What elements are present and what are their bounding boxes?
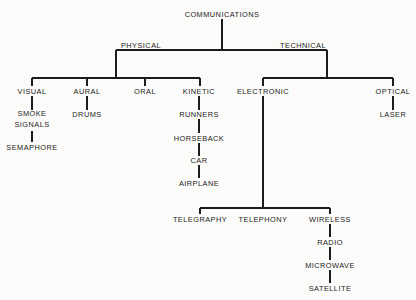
node-horseback: HORSEBACK [174, 134, 224, 143]
node-aural: AURAL [74, 87, 101, 96]
node-label: ELECTRONIC [237, 87, 289, 96]
node-label: SEMAPHORE [6, 143, 57, 152]
node-label: LASER [380, 110, 407, 119]
node-label: TELEPHONY [239, 215, 288, 224]
node-label: MICROWAVE [305, 261, 355, 270]
node-optical: OPTICAL [376, 87, 411, 96]
node-label: OPTICAL [376, 87, 411, 96]
node-label: TECHNICAL [280, 41, 326, 50]
node-communications: COMMUNICATIONS [185, 10, 260, 19]
node-label: KINETIC [183, 87, 215, 96]
node-physical: PHYSICAL [121, 41, 161, 50]
node-label: TELEGRAPHY [173, 215, 227, 224]
node-telephony: TELEPHONY [239, 215, 288, 224]
node-technical: TECHNICAL [280, 41, 326, 50]
node-label: AIRPLANE [179, 179, 219, 188]
node-label: WIRELESS [309, 215, 351, 224]
node-visual: VISUAL [18, 87, 47, 96]
node-wireless: WIRELESS [309, 215, 351, 224]
node-label: RUNNERS [179, 110, 219, 119]
node-label: AURAL [74, 87, 101, 96]
node-satellite: SATELLITE [309, 284, 352, 293]
node-label: SIGNALS [14, 119, 49, 130]
node-label: HORSEBACK [174, 134, 224, 143]
node-radio: RADIO [317, 238, 343, 247]
node-label: CAR [191, 156, 208, 165]
node-label: SMOKE [14, 109, 49, 120]
node-label: DRUMS [72, 110, 101, 119]
node-label: PHYSICAL [121, 41, 161, 50]
node-semaphore: SEMAPHORE [6, 143, 57, 152]
node-kinetic: KINETIC [183, 87, 215, 96]
node-car: CAR [191, 156, 208, 165]
node-laser: LASER [380, 110, 407, 119]
node-label: RADIO [317, 238, 343, 247]
node-electronic: ELECTRONIC [237, 87, 289, 96]
node-oral: ORAL [134, 87, 156, 96]
diagram-connector-lines [0, 0, 416, 300]
node-drums: DRUMS [72, 110, 101, 119]
communications-tree-diagram: COMMUNICATIONSPHYSICALTECHNICALVISUALAUR… [0, 0, 416, 300]
node-label: SATELLITE [309, 284, 352, 293]
node-label: VISUAL [18, 87, 47, 96]
node-telegraphy: TELEGRAPHY [173, 215, 227, 224]
node-microwave: MICROWAVE [305, 261, 355, 270]
node-label: COMMUNICATIONS [185, 10, 260, 19]
node-smoke-signals: SMOKESIGNALS [14, 109, 49, 130]
node-runners: RUNNERS [179, 110, 219, 119]
node-label: ORAL [134, 87, 156, 96]
node-airplane: AIRPLANE [179, 179, 219, 188]
